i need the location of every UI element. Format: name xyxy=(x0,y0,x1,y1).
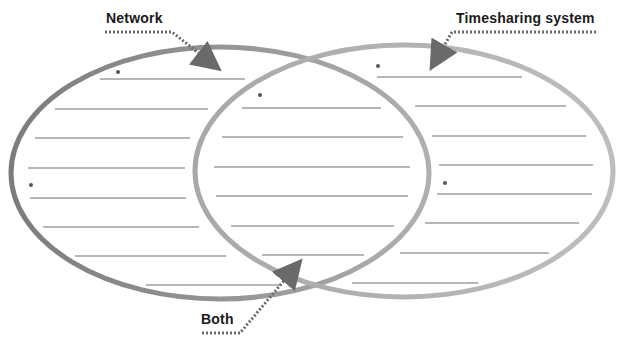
timesharing-circle xyxy=(195,45,613,297)
network-circle xyxy=(11,47,429,299)
bullet-dot xyxy=(443,181,447,185)
timesharing-lines xyxy=(352,77,593,283)
bullet-dot xyxy=(258,93,262,97)
venn-diagram xyxy=(0,0,618,339)
bullets xyxy=(29,64,447,187)
bullet-dot xyxy=(116,70,120,74)
network-label: Network xyxy=(106,10,163,26)
network-lines xyxy=(28,79,280,285)
timesharing-label: Timesharing system xyxy=(456,10,595,26)
timesharing-pointer-arrow xyxy=(437,32,596,58)
bullet-dot xyxy=(29,183,33,187)
both-lines xyxy=(214,108,410,255)
bullet-dot xyxy=(376,64,380,68)
both-label: Both xyxy=(201,311,234,327)
